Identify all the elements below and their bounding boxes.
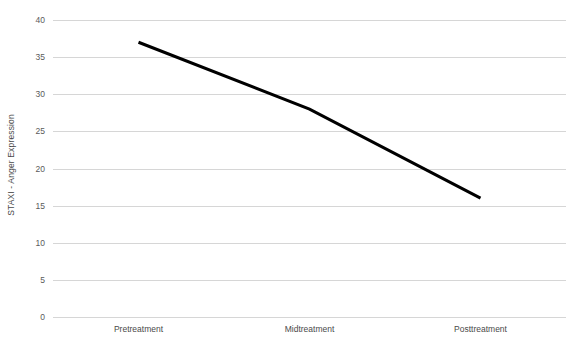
series-layer [53, 20, 566, 317]
y-axis-tick-label: 25 [0, 127, 45, 136]
y-axis-tick-label: 10 [0, 239, 45, 248]
line-chart: STAXI - Anger Expression 051015202530354… [0, 0, 580, 358]
y-axis-tick-label: 0 [0, 313, 45, 322]
y-axis-tick-label: 30 [0, 90, 45, 99]
y-axis-tick-label: 20 [0, 164, 45, 173]
x-axis-tick-label: Midtreatment [285, 325, 335, 334]
series-line-anger-expression [139, 42, 481, 198]
plot-area [53, 20, 566, 317]
y-axis-tick-label: 15 [0, 201, 45, 210]
x-axis-tick-label: Pretreatment [114, 325, 163, 334]
x-axis-tick-label: Posttreatment [454, 325, 507, 334]
gridline [53, 317, 566, 318]
y-axis-tick-label: 35 [0, 53, 45, 62]
y-axis-tick-label: 40 [0, 16, 45, 25]
y-axis-tick-label: 5 [0, 276, 45, 285]
